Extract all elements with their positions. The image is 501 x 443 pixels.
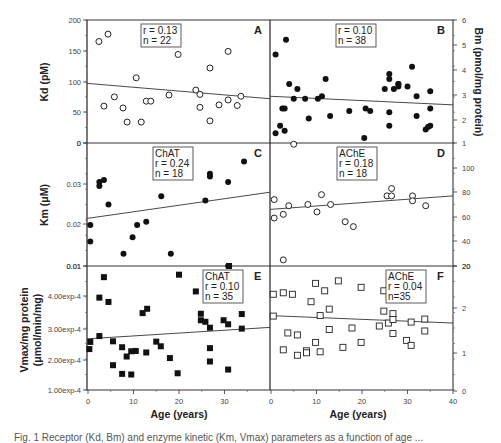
y-tick-label: 6 xyxy=(462,16,466,25)
data-point xyxy=(87,238,93,244)
data-point xyxy=(294,86,300,92)
data-point xyxy=(124,119,130,125)
data-point xyxy=(225,48,231,54)
data-point xyxy=(305,202,311,208)
data-point xyxy=(133,348,139,354)
x-axis-label-left: Age (years) xyxy=(150,408,207,420)
data-point xyxy=(96,39,102,45)
data-point xyxy=(381,308,387,314)
data-point xyxy=(335,278,341,284)
y-tick-label: 40 xyxy=(462,237,470,246)
data-point xyxy=(313,339,319,345)
data-point xyxy=(422,316,428,322)
y-tick-label: 100 xyxy=(462,164,475,173)
data-point xyxy=(270,291,276,297)
data-point xyxy=(280,290,286,296)
data-point xyxy=(207,65,213,71)
y-tick-label: 4.00exp-4 xyxy=(48,292,81,301)
data-point xyxy=(319,93,325,99)
data-point xyxy=(328,202,334,208)
y-tick-label: 4 xyxy=(462,66,466,75)
stats-text: n = 35 xyxy=(205,291,234,302)
data-point xyxy=(144,306,150,312)
data-point xyxy=(326,306,332,312)
data-point xyxy=(313,280,319,286)
data-point xyxy=(176,272,182,278)
data-point xyxy=(390,330,396,336)
data-point xyxy=(414,113,420,119)
data-point xyxy=(286,203,292,209)
data-point xyxy=(414,93,420,99)
data-point xyxy=(322,288,328,294)
data-point xyxy=(207,118,213,124)
data-point xyxy=(101,274,107,280)
data-point xyxy=(130,234,136,240)
data-point xyxy=(158,343,164,349)
x-tick-label: 40 xyxy=(449,397,457,406)
data-point xyxy=(119,371,125,377)
panel-c: ChATr = 0.24n = 18C xyxy=(87,147,270,269)
stats-text: n = 18 xyxy=(339,168,368,179)
data-point xyxy=(382,86,388,92)
data-point xyxy=(175,370,181,376)
data-point xyxy=(422,328,428,334)
data-point xyxy=(241,158,247,164)
data-point xyxy=(346,108,352,114)
data-point xyxy=(110,338,116,344)
data-point xyxy=(271,215,277,221)
data-point xyxy=(408,342,414,348)
figure-caption: Fig. 1 Receptor (Kd, Bm) and enzyme kine… xyxy=(14,432,423,443)
y-tick-label: 150 xyxy=(68,47,81,56)
y-tick-label: 0 xyxy=(77,139,81,148)
y-tick-label: 1.00exp-4 xyxy=(48,386,81,395)
y-axis-label-vmax-units: (μmol/min/mg) xyxy=(31,294,43,366)
y-axis-label-kd: Kd (pM) xyxy=(38,62,50,101)
data-point xyxy=(207,358,213,364)
data-point xyxy=(289,291,295,297)
data-point xyxy=(308,299,314,305)
data-point xyxy=(427,106,433,112)
stats-text: n=35 xyxy=(388,291,411,302)
data-point xyxy=(216,102,222,108)
data-point xyxy=(138,119,144,125)
panel-d: AChEr = 0.18n = 18D xyxy=(270,141,453,263)
y-tick-label: 100 xyxy=(68,78,81,87)
x-tick-label: 10 xyxy=(129,397,137,406)
data-point xyxy=(168,251,174,257)
data-point xyxy=(423,203,429,209)
x-tick-label: 30 xyxy=(403,397,411,406)
regression-line xyxy=(270,96,453,105)
y-tick-label: 2 xyxy=(462,304,466,313)
regression-line xyxy=(87,192,270,218)
panel-letter: D xyxy=(437,147,445,159)
x-tick-label: 20 xyxy=(175,397,183,406)
data-point xyxy=(158,193,164,199)
data-point xyxy=(167,355,173,361)
panel-letter: C xyxy=(254,147,262,159)
data-point xyxy=(197,104,203,110)
panel-f: AChEr = 0.04n=35F xyxy=(270,270,453,358)
y-tick-label: 0.02 xyxy=(66,220,81,229)
data-point xyxy=(128,372,134,378)
data-point xyxy=(358,339,364,345)
data-point xyxy=(361,135,367,141)
data-point xyxy=(120,251,126,257)
data-point xyxy=(282,106,288,112)
y-tick-label: 0.01 xyxy=(66,262,81,271)
data-point xyxy=(425,124,431,130)
x-tick-label: 0 xyxy=(269,397,273,406)
y-tick-label: 2.00exp-4 xyxy=(48,356,81,365)
data-point xyxy=(283,37,289,43)
data-point xyxy=(207,345,213,351)
data-point xyxy=(271,197,277,203)
y-tick-label: 80 xyxy=(462,188,470,197)
data-point xyxy=(86,346,92,352)
data-point xyxy=(238,93,244,99)
x-tick-label: 20 xyxy=(358,397,366,406)
y-tick-label: 1 xyxy=(462,139,466,148)
y-tick-label: 2 xyxy=(462,116,466,125)
data-point xyxy=(234,102,240,108)
data-point xyxy=(120,105,126,111)
y-tick-label: 200 xyxy=(68,16,81,25)
